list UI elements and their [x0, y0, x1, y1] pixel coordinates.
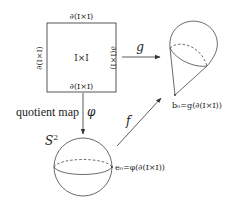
arrow-g-label: g — [136, 40, 144, 54]
arrow-g: g — [122, 40, 160, 57]
arrow-phi-label: φ — [87, 105, 96, 119]
unit-square: ∂(I×I) ∂(I×I) ∂(I×I) ∂(I×I) I×I — [35, 12, 118, 92]
square-left-label: ∂(I×I) — [35, 46, 44, 69]
sphere-label-base: S — [45, 134, 53, 148]
arrow-f-label: f — [125, 114, 133, 128]
square-center-label: I×I — [74, 53, 89, 63]
teardrop-point-label: b₀=g(∂(I×I)) — [172, 101, 222, 110]
quotient-map-diagram: ∂(I×I) ∂(I×I) ∂(I×I) ∂(I×I) I×I g b₀=g(∂… — [0, 0, 245, 214]
square-bottom-label: ∂(I×I) — [70, 82, 93, 91]
sphere-point-label: e₀=φ(∂(I×I)) — [115, 163, 165, 172]
teardrop-surface — [170, 21, 218, 96]
arrow-f: f — [117, 98, 161, 146]
sphere-label-superscript: 2 — [53, 133, 58, 142]
arrow-phi: quotient map φ — [16, 93, 96, 134]
sphere-s2 — [54, 138, 113, 196]
sphere-label: S2 — [45, 133, 58, 148]
square-top-label: ∂(I×I) — [70, 12, 93, 21]
quotient-map-caption: quotient map — [16, 105, 79, 119]
square-right-label: ∂(I×I) — [109, 46, 118, 69]
